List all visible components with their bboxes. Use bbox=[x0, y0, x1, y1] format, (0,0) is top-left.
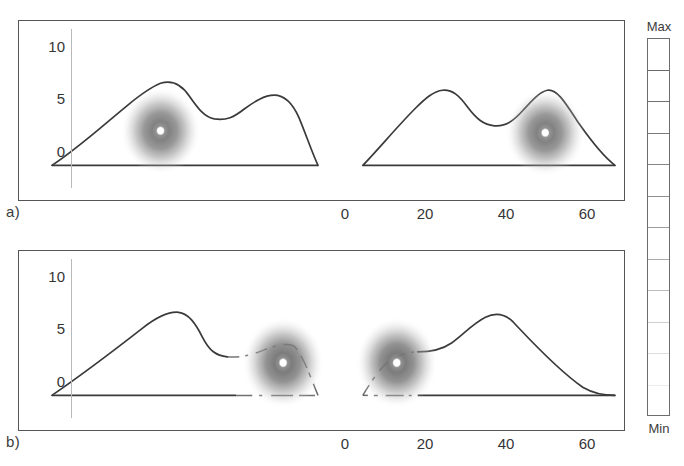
panel-a-yaxis-spine bbox=[71, 29, 72, 188]
panel-a-xtick-20: 20 bbox=[417, 206, 434, 221]
colorbar-segment bbox=[648, 228, 669, 260]
panel-b: 10 5 0 bbox=[18, 250, 625, 431]
panel-b-xaxis: 0 20 40 60 bbox=[18, 436, 625, 460]
panel-b-yaxis: 10 5 0 bbox=[19, 259, 79, 418]
panel-b-xtick-60: 60 bbox=[579, 436, 596, 451]
panel-b-xtick-20: 20 bbox=[417, 436, 434, 451]
panel-b-svg bbox=[19, 251, 624, 430]
colorbar-segment bbox=[648, 134, 669, 166]
panel-a-xaxis: 0 20 40 60 bbox=[18, 206, 625, 230]
panel-b-right-profile bbox=[356, 314, 615, 408]
panel-a: 10 5 0 bbox=[18, 20, 625, 201]
curve-right-solid bbox=[418, 314, 615, 395]
colorbar-segment bbox=[648, 102, 669, 134]
colorbar-segment bbox=[648, 165, 669, 197]
colorbar: Max Min bbox=[634, 18, 684, 448]
panel-b-ytick-10: 10 bbox=[48, 269, 65, 284]
panel-a-left-profile bbox=[52, 82, 318, 174]
panel-b-yaxis-spine bbox=[71, 259, 72, 418]
panel-a-svg bbox=[19, 21, 624, 200]
colorbar-segment bbox=[648, 386, 669, 418]
panel-a-ytick-10: 10 bbox=[48, 39, 65, 54]
hotspot-left-core bbox=[157, 128, 163, 134]
colorbar-segment bbox=[648, 323, 669, 355]
colorbar-min-label: Min bbox=[634, 422, 684, 435]
panel-b-plot bbox=[19, 251, 624, 430]
figure-root: 10 5 0 a) 0 20 40 60 bbox=[0, 0, 684, 466]
panel-b-xtick-40: 40 bbox=[498, 436, 515, 451]
colorbar-segment bbox=[648, 197, 669, 229]
colorbar-max-label: Max bbox=[634, 20, 684, 33]
panel-a-right-profile bbox=[363, 89, 615, 176]
colorbar-segment bbox=[648, 71, 669, 103]
colorbar-segment bbox=[648, 39, 669, 71]
hotspot-right-core bbox=[542, 130, 548, 136]
panel-a-xtick-60: 60 bbox=[579, 206, 596, 221]
panel-b-left-profile bbox=[52, 312, 324, 408]
panel-a-yaxis: 10 5 0 bbox=[19, 29, 79, 188]
panel-b-xtick-0: 0 bbox=[341, 436, 349, 451]
panel-a-xtick-40: 40 bbox=[498, 206, 515, 221]
colorbar-segment bbox=[648, 354, 669, 386]
panel-b-ytick-0: 0 bbox=[57, 374, 65, 389]
hotspot-right-core bbox=[394, 360, 400, 366]
colorbar-segment bbox=[648, 260, 669, 292]
colorbar-box bbox=[647, 38, 670, 416]
panel-b-ytick-5: 5 bbox=[57, 321, 65, 336]
colorbar-segment bbox=[648, 291, 669, 323]
hotspot-left-core bbox=[280, 360, 286, 366]
panel-a-xtick-0: 0 bbox=[341, 206, 349, 221]
panel-a-ytick-5: 5 bbox=[57, 91, 65, 106]
panel-a-ytick-0: 0 bbox=[57, 144, 65, 159]
panel-a-plot bbox=[19, 21, 624, 200]
